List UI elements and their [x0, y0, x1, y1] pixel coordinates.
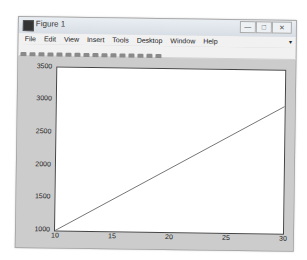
dock-arrow-icon[interactable]: ▾: [289, 38, 292, 45]
x-tick: 30: [273, 235, 293, 242]
menu-file[interactable]: File: [25, 33, 36, 44]
maximize-button[interactable]: □: [256, 21, 272, 33]
x-tick: 10: [45, 231, 65, 238]
menu-edit[interactable]: Edit: [44, 33, 56, 44]
x-tick: 15: [102, 232, 122, 239]
minimize-button[interactable]: —: [240, 21, 256, 33]
y-tick: 3500: [18, 62, 52, 69]
x-tick: 25: [216, 234, 236, 241]
menu-view[interactable]: View: [64, 34, 79, 45]
x-tick: 20: [159, 233, 179, 240]
menu-help[interactable]: Help: [203, 36, 218, 47]
menu-tools[interactable]: Tools: [112, 34, 128, 45]
menu-window[interactable]: Window: [170, 35, 195, 46]
y-tick: 3000: [18, 94, 52, 101]
y-tick: 1500: [16, 192, 50, 199]
y-tick: 2500: [17, 127, 51, 134]
plot-axes[interactable]: [54, 67, 286, 235]
y-tick: 2000: [17, 160, 51, 167]
figure-canvas: 3500 3000 2500 2000 1500 1000 10 15 20 2…: [16, 56, 296, 251]
window-title: Figure 1: [36, 19, 65, 28]
matlab-figure-icon: [23, 20, 34, 31]
menu-insert[interactable]: Insert: [87, 34, 105, 45]
figure-window: Figure 1 — □ ✕ File Edit View Insert Too…: [15, 16, 297, 252]
line-plot: [55, 68, 285, 234]
menu-desktop[interactable]: Desktop: [137, 35, 163, 46]
close-button[interactable]: ✕: [272, 22, 292, 34]
